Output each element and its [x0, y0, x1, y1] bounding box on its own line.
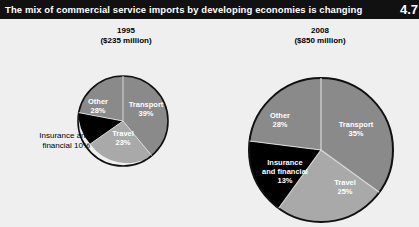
pie-2008-title: 2008	[255, 26, 385, 36]
pie-1995-heading: 1995 ($235 million)	[71, 26, 181, 46]
pie-1995-label-travel: Travel 23%	[103, 129, 143, 147]
pie-1995-label-transport: Transport 39%	[118, 100, 174, 118]
pie-1995-label-other-name: Other	[78, 97, 118, 106]
pie-1995-label-insurance-financial-line1: Insurance and	[12, 131, 90, 141]
pie-2008-label-other-value: 28%	[257, 120, 303, 129]
pie-1995-label-transport-name: Transport	[118, 100, 174, 109]
pie-1995-label-travel-name: Travel	[103, 129, 143, 138]
pie-1995-label-insurance-financial: Insurance and financial 10%	[12, 131, 90, 151]
pie-1995-label-other-value: 28%	[78, 106, 118, 115]
pie-2008-label-travel-name: Travel	[325, 178, 365, 187]
figure-number: 4.7	[400, 2, 418, 17]
pie-2008-label-transport: Transport 35%	[327, 120, 385, 138]
pie-1995-subtitle: ($235 million)	[71, 36, 181, 46]
pie-2008-label-travel-value: 25%	[325, 187, 365, 196]
pie-chart-1995	[76, 74, 170, 168]
charts-canvas: 1995 ($235 million) Transport 39%	[0, 19, 419, 227]
pie-2008-subtitle: ($850 million)	[255, 36, 385, 46]
figure-title-bar: The mix of commercial service imports by…	[0, 0, 419, 19]
pie-2008-label-transport-value: 35%	[327, 129, 385, 138]
figure-title: The mix of commercial service imports by…	[5, 4, 362, 15]
figure-page: The mix of commercial service imports by…	[0, 0, 419, 227]
pie-2008-label-transport-name: Transport	[327, 120, 385, 129]
pie-1995-label-transport-value: 39%	[118, 109, 174, 118]
pie-1995-label-other: Other 28%	[78, 97, 118, 115]
pie-2008-label-other-name: Other	[257, 111, 303, 120]
pie-chart-2008	[246, 75, 396, 225]
pie-1995-label-insurance-financial-line2: financial 10%	[12, 141, 90, 151]
pie-1995-title: 1995	[71, 26, 181, 36]
pie-2008-label-insurance-financial: Insurance and financial 13%	[249, 158, 321, 185]
pie-2008-label-insurance-financial-value: 13%	[249, 176, 321, 185]
pie-1995-label-travel-value: 23%	[103, 138, 143, 147]
pie-2008-label-insurance-financial-line1: Insurance	[249, 158, 321, 167]
pie-2008-heading: 2008 ($850 million)	[255, 26, 385, 46]
pie-2008-label-travel: Travel 25%	[325, 178, 365, 196]
pie-2008-label-other: Other 28%	[257, 111, 303, 129]
pie-2008-label-insurance-financial-line2: and financial	[249, 167, 321, 176]
